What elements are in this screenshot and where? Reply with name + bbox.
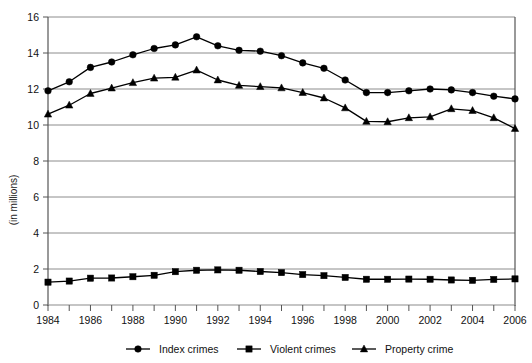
legend-label-2: Property crime [385,343,453,355]
data-point-1-1991 [193,267,199,273]
legend-item-property-crime[interactable]: Property crime [352,343,453,355]
xtick-label-1988: 1988 [121,314,145,326]
data-point-0-1990 [172,42,179,49]
data-point-1-1993 [236,267,242,273]
data-point-1-2000 [385,276,391,282]
data-point-0-1988 [130,52,137,59]
data-point-0-2004 [469,89,476,96]
ytick-label-10: 10 [27,119,39,131]
chart-canvas: 0246810121416198419861988199019921994199… [0,0,532,363]
data-point-2-1985 [66,101,73,108]
data-point-0-1991 [193,34,200,41]
data-point-0-1986 [87,64,94,71]
data-point-2-2003 [448,105,455,112]
xtick-label-1994: 1994 [249,314,273,326]
data-point-0-2005 [490,93,497,100]
data-point-0-1995 [278,52,285,59]
series-index-crimes [45,34,519,103]
data-point-1-2003 [448,277,454,283]
data-point-0-2006 [512,96,519,103]
data-point-0-2002 [427,86,434,93]
data-point-1-1987 [109,275,115,281]
data-point-1-2004 [469,277,475,283]
data-point-1-1996 [300,271,306,277]
xtick-label-1984: 1984 [36,314,60,326]
data-point-1-1998 [342,274,348,280]
xtick-label-2000: 2000 [376,314,400,326]
ytick-label-2: 2 [33,263,39,275]
data-point-1-1984 [45,279,51,285]
data-point-1-1992 [215,267,221,273]
series-line-2 [48,70,515,129]
ytick-label-16: 16 [27,11,39,23]
ytick-label-0: 0 [33,299,39,311]
ytick-label-12: 12 [27,83,39,95]
legend-item-index-crimes[interactable]: Index crimes [126,343,219,355]
xtick-label-1992: 1992 [206,314,230,326]
data-point-0-1996 [299,60,306,67]
xtick-label-1986: 1986 [79,314,103,326]
data-point-1-1986 [87,275,93,281]
data-point-2-1991 [193,66,200,73]
data-point-0-1997 [321,65,328,72]
data-point-1-1997 [321,273,327,279]
data-point-1-1985 [66,278,72,284]
legend-marker-circle [135,346,142,353]
series-violent-crimes [45,267,518,285]
series-property-crime [44,66,518,131]
data-point-0-1998 [342,77,349,84]
data-point-0-1985 [66,79,73,86]
xtick-label-1998: 1998 [334,314,358,326]
data-point-0-2003 [448,87,455,94]
data-point-0-1999 [363,89,370,96]
ytick-label-6: 6 [33,191,39,203]
legend-label-0: Index crimes [159,343,219,355]
data-point-0-2001 [406,88,413,95]
data-point-0-1994 [257,48,264,55]
data-point-0-1992 [215,43,222,50]
data-point-1-2002 [427,276,433,282]
xtick-label-1996: 1996 [291,314,315,326]
data-point-0-1984 [45,88,52,95]
data-point-1-1990 [172,269,178,275]
legend-label-1: Violent crimes [270,343,336,355]
data-point-1-1988 [130,274,136,280]
data-point-0-1993 [236,47,243,54]
xtick-label-1990: 1990 [164,314,188,326]
data-point-1-2006 [512,276,518,282]
data-point-0-2000 [384,89,391,96]
crime-statistics-line-chart: 0246810121416198419861988199019921994199… [0,0,532,363]
ytick-label-4: 4 [33,227,39,239]
xtick-label-2002: 2002 [418,314,442,326]
ytick-label-14: 14 [27,47,39,59]
xtick-label-2006: 2006 [503,314,527,326]
data-point-1-2005 [491,276,497,282]
data-point-1-2001 [406,276,412,282]
data-point-1-1994 [257,268,263,274]
data-point-2-2006 [511,125,518,132]
y-axis-title: (in millions) [8,175,19,226]
xtick-label-2004: 2004 [461,314,485,326]
ytick-label-8: 8 [33,155,39,167]
data-point-1-1989 [151,272,157,278]
data-point-1-1995 [278,270,284,276]
data-point-1-1999 [363,276,369,282]
legend-marker-square [246,346,252,352]
data-point-0-1987 [108,59,115,66]
legend-item-violent-crimes[interactable]: Violent crimes [237,343,336,355]
data-point-0-1989 [151,45,158,52]
